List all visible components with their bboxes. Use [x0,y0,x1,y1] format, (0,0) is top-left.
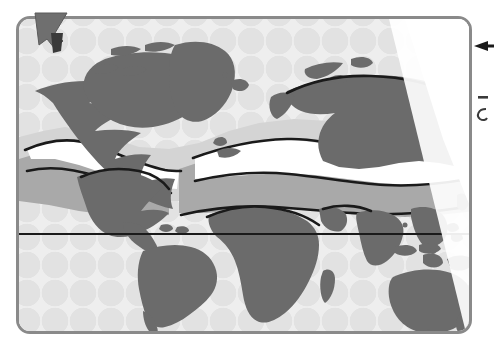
island-dot-4 [403,223,408,228]
island-madagascar [320,269,335,303]
island-dot-1 [430,248,436,254]
figure-root [0,0,494,348]
island-caribbean-1 [159,224,173,232]
cursor-tip [51,33,63,53]
left-arrow-icon [474,41,488,51]
island-caribbean-2 [175,226,189,234]
landmass-scandinavia [269,93,295,120]
island-arctic-russia [351,57,373,68]
world-map-svg [19,19,469,331]
pointer-cursor[interactable] [33,11,73,59]
world-map-canvas [19,19,469,331]
island-indonesia-1 [395,245,417,256]
island-borneo [423,253,443,267]
island-arctic-2 [145,42,175,52]
landmass-africa [208,207,319,323]
landmass-india [356,210,403,265]
world-map-frame[interactable] [16,16,472,334]
island-iceland [231,79,249,91]
curve-mark [478,109,487,120]
cursor-body [35,13,67,49]
island-dot-5 [223,73,228,78]
left-arrow-tail [486,45,494,48]
landmass-greenland [169,42,235,122]
dash-mark [478,96,488,99]
annotation-column [472,0,494,348]
